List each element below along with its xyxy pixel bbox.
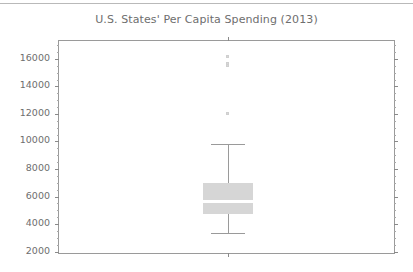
box-iqr <box>203 183 253 214</box>
plot-inner <box>59 41 394 253</box>
y-axis-minor-tick-right <box>394 93 396 94</box>
y-axis-minor-tick <box>57 148 59 149</box>
y-axis-minor-tick-right <box>394 203 396 204</box>
y-axis-minor-tick <box>57 73 59 74</box>
x-axis-tick-mark-top <box>228 37 229 41</box>
outlier-point <box>226 64 229 67</box>
lower-whisker-cap <box>211 233 245 234</box>
y-axis-minor-tick <box>57 217 59 218</box>
y-axis-minor-tick-right <box>394 148 396 149</box>
y-axis-tick-mark-right <box>394 114 398 115</box>
y-axis-tick-mark <box>55 114 59 115</box>
chart-title: U.S. States' Per Capita Spending (2013) <box>0 13 413 26</box>
y-axis-tick-mark <box>55 252 59 253</box>
chart-figure: U.S. States' Per Capita Spending (2013) … <box>0 0 413 272</box>
y-axis-minor-tick <box>57 162 59 163</box>
y-axis-minor-tick-right <box>394 121 396 122</box>
y-axis-tick-mark <box>55 86 59 87</box>
y-axis-tick-mark <box>55 59 59 60</box>
y-axis-tick-label: 2000 <box>0 245 50 256</box>
y-axis-minor-tick <box>57 203 59 204</box>
upper-whisker-cap <box>211 144 245 145</box>
y-axis-tick-label: 10000 <box>0 134 50 145</box>
y-axis-tick-label: 4000 <box>0 217 50 228</box>
y-axis-tick-label: 14000 <box>0 79 50 90</box>
y-axis-minor-tick <box>57 155 59 156</box>
y-axis-minor-tick-right <box>394 231 396 232</box>
y-axis-minor-tick <box>57 45 59 46</box>
y-axis-minor-tick <box>57 128 59 129</box>
y-axis-minor-tick-right <box>394 162 396 163</box>
upper-whisker <box>228 144 229 183</box>
median-line <box>203 200 253 203</box>
y-axis-minor-tick <box>57 210 59 211</box>
y-axis-tick-label: 8000 <box>0 162 50 173</box>
y-axis-minor-tick-right <box>394 238 396 239</box>
y-axis-minor-tick <box>57 190 59 191</box>
y-axis-minor-tick <box>57 135 59 136</box>
y-axis-tick-mark-right <box>394 141 398 142</box>
y-axis-minor-tick <box>57 107 59 108</box>
y-axis-tick-label: 16000 <box>0 52 50 63</box>
y-axis-tick-mark-right <box>394 59 398 60</box>
plot-area <box>58 40 395 254</box>
y-axis-minor-tick-right <box>394 128 396 129</box>
y-axis-minor-tick <box>57 66 59 67</box>
y-axis-tick-mark-right <box>394 252 398 253</box>
y-axis-tick-mark-right <box>394 86 398 87</box>
y-axis-minor-tick-right <box>394 80 396 81</box>
x-axis-tick-mark <box>228 253 229 257</box>
y-axis-tick-mark-right <box>394 197 398 198</box>
y-axis-tick-mark <box>55 224 59 225</box>
y-axis-tick-mark <box>55 197 59 198</box>
y-axis-minor-tick-right <box>394 107 396 108</box>
y-axis-tick-mark <box>55 169 59 170</box>
y-axis-minor-tick <box>57 80 59 81</box>
top-divider-rule <box>0 3 413 4</box>
y-axis-minor-tick-right <box>394 52 396 53</box>
y-axis-minor-tick <box>57 52 59 53</box>
y-axis-minor-tick <box>57 238 59 239</box>
y-axis-minor-tick-right <box>394 245 396 246</box>
y-axis-minor-tick-right <box>394 176 396 177</box>
y-axis-minor-tick-right <box>394 45 396 46</box>
y-axis-tick-mark-right <box>394 224 398 225</box>
y-axis-minor-tick-right <box>394 73 396 74</box>
y-axis-minor-tick <box>57 183 59 184</box>
y-axis-minor-tick-right <box>394 183 396 184</box>
y-axis-minor-tick-right <box>394 217 396 218</box>
outlier-point <box>226 55 229 58</box>
y-axis-minor-tick <box>57 231 59 232</box>
y-axis-minor-tick <box>57 93 59 94</box>
y-axis-minor-tick <box>57 100 59 101</box>
y-axis-minor-tick-right <box>394 155 396 156</box>
outlier-point <box>226 112 229 115</box>
y-axis-minor-tick-right <box>394 100 396 101</box>
y-axis-minor-tick-right <box>394 135 396 136</box>
y-axis-minor-tick <box>57 176 59 177</box>
y-axis-tick-label: 6000 <box>0 190 50 201</box>
y-axis-minor-tick-right <box>394 190 396 191</box>
y-axis-minor-tick-right <box>394 210 396 211</box>
lower-whisker <box>228 214 229 233</box>
y-axis-minor-tick-right <box>394 66 396 67</box>
y-axis-tick-mark <box>55 141 59 142</box>
y-axis-minor-tick <box>57 121 59 122</box>
y-axis-tick-label: 12000 <box>0 107 50 118</box>
y-axis-tick-mark-right <box>394 169 398 170</box>
y-axis-minor-tick <box>57 245 59 246</box>
